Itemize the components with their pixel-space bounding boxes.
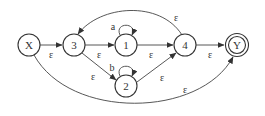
svg-text:3: 3 [71,39,77,51]
svg-text:X: X [25,39,33,51]
state-2: 2 [115,75,137,97]
edge-label: ε [174,12,178,23]
edge-label: ε [208,49,212,60]
state-1: 1 [115,34,137,56]
svg-text:Y: Y [233,39,241,51]
svg-text:1: 1 [123,39,129,51]
edge-3-1: ε [85,45,114,60]
edge-label: ε [160,72,164,83]
edge-4-3-back: ε [78,10,182,35]
edge-2-4: ε [137,53,176,83]
nfa-diagram: ε ε ε a b ε ε ε ε ε X 3 [0,0,265,116]
edge-label: ε [49,49,53,60]
edge-label: ε [97,49,101,60]
svg-text:4: 4 [182,39,188,51]
edge-1-1-loop: a [111,21,133,36]
edge-1-4: ε [137,45,173,60]
edge-label: a [111,21,116,32]
edge-2-2-loop: b [110,62,133,77]
edge-label: ε [91,71,95,82]
edge-x-3: ε [40,45,62,60]
state-3: 3 [63,34,85,56]
edge-4-y: ε [196,45,224,60]
edge-label: ε [149,49,153,60]
edge-label: ε [183,84,187,95]
state-y-accepting: Y [226,34,249,57]
edge-label: b [110,62,115,73]
state-x: X [18,34,40,56]
state-4: 4 [174,34,196,56]
svg-text:2: 2 [123,80,129,92]
